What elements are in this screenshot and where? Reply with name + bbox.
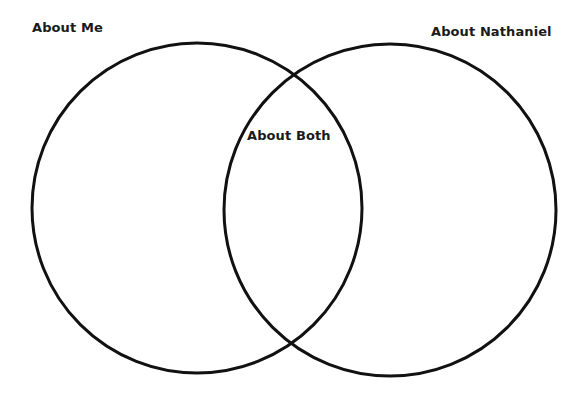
circle-about-me [32, 43, 362, 373]
venn-circles [0, 0, 586, 400]
label-about-me: About Me [32, 20, 103, 35]
circle-about-nathaniel [224, 44, 556, 376]
label-about-both: About Both [247, 128, 331, 143]
label-about-nathaniel: About Nathaniel [431, 24, 552, 39]
venn-diagram: About Me About Nathaniel About Both [0, 0, 586, 400]
